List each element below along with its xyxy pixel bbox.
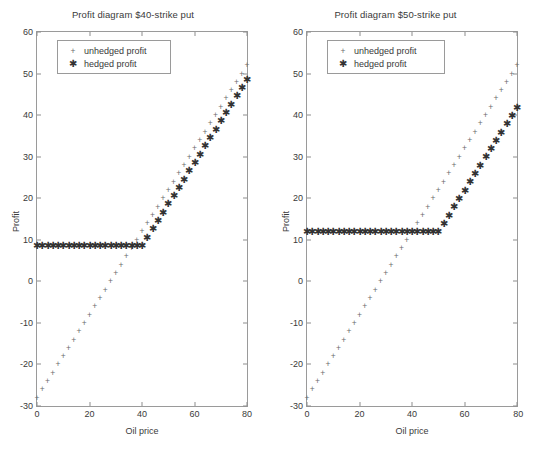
data-point-star: ✱ bbox=[503, 120, 511, 130]
y-tick-mark bbox=[37, 32, 41, 33]
y-tick-label: -20 bbox=[20, 359, 33, 369]
y-tick-mark bbox=[513, 198, 517, 199]
data-point-plus: + bbox=[213, 111, 218, 120]
data-point-plus: + bbox=[150, 211, 155, 220]
x-tick-label: 20 bbox=[84, 409, 94, 419]
data-point-plus: + bbox=[310, 385, 315, 394]
x-tick-mark bbox=[247, 402, 248, 406]
x-tick-mark bbox=[517, 402, 518, 406]
legend-left: + unhedged profit ✱ hedged profit bbox=[57, 40, 171, 74]
data-point-plus: + bbox=[341, 335, 346, 344]
x-tick-label: 40 bbox=[407, 409, 417, 419]
y-tick-mark bbox=[307, 156, 311, 157]
y-tick-label: -10 bbox=[290, 318, 303, 328]
data-point-star: ✱ bbox=[143, 233, 151, 243]
data-point-star: ✱ bbox=[75, 241, 83, 251]
y-tick-label: 50 bbox=[293, 69, 303, 79]
data-point-plus: + bbox=[82, 319, 87, 328]
data-point-plus: + bbox=[368, 294, 373, 303]
data-point-plus: + bbox=[224, 94, 229, 103]
data-point-plus: + bbox=[473, 127, 478, 136]
y-tick-label: 10 bbox=[293, 235, 303, 245]
data-point-plus: + bbox=[352, 319, 357, 328]
y-tick-mark bbox=[37, 73, 41, 74]
data-point-star: ✱ bbox=[476, 161, 484, 171]
data-point-star: ✱ bbox=[128, 241, 136, 251]
y-tick-mark bbox=[513, 364, 517, 365]
data-point-star: ✱ bbox=[164, 200, 172, 210]
data-point-plus: + bbox=[113, 269, 118, 278]
legend-entry-hedged-left: ✱ hedged profit bbox=[62, 57, 164, 70]
plot-area-left: -30-20-100102030405060020406080+++++++++… bbox=[36, 31, 248, 407]
y-tick-mark bbox=[307, 73, 311, 74]
data-point-star: ✱ bbox=[329, 228, 337, 238]
data-point-star: ✱ bbox=[180, 175, 188, 185]
data-point-star: ✱ bbox=[107, 241, 115, 251]
y-tick-mark bbox=[243, 281, 247, 282]
data-point-plus: + bbox=[92, 302, 97, 311]
y-tick-mark bbox=[243, 239, 247, 240]
data-point-plus: + bbox=[77, 327, 82, 336]
x-tick-label: 60 bbox=[459, 409, 469, 419]
data-point-star: ✱ bbox=[356, 228, 364, 238]
data-point-plus: + bbox=[124, 252, 129, 261]
data-point-star: ✱ bbox=[371, 228, 379, 238]
data-point-star: ✱ bbox=[217, 117, 225, 127]
data-point-plus: + bbox=[161, 194, 166, 203]
data-point-plus: + bbox=[129, 244, 134, 253]
y-tick-mark bbox=[37, 239, 41, 240]
data-point-plus: + bbox=[425, 202, 430, 211]
y-tick-label: -30 bbox=[20, 401, 33, 411]
y-tick-label: 50 bbox=[23, 69, 33, 79]
data-point-star: ✱ bbox=[445, 211, 453, 221]
data-point-star: ✱ bbox=[424, 228, 432, 238]
x-tick-mark bbox=[307, 32, 308, 36]
data-point-star: ✱ bbox=[382, 228, 390, 238]
x-axis-label-left: Oil price bbox=[36, 426, 248, 436]
data-point-plus: + bbox=[478, 119, 483, 128]
data-point-star: ✱ bbox=[387, 228, 395, 238]
data-point-plus: + bbox=[499, 86, 504, 95]
data-point-star: ✱ bbox=[450, 203, 458, 213]
y-tick-label: 60 bbox=[293, 27, 303, 37]
data-point-plus: + bbox=[357, 310, 362, 319]
y-tick-label: 10 bbox=[23, 235, 33, 245]
x-tick-mark bbox=[37, 32, 38, 36]
data-point-plus: + bbox=[415, 219, 420, 228]
y-tick-label: -30 bbox=[290, 401, 303, 411]
legend-label-hedged-left: hedged profit bbox=[84, 59, 137, 69]
data-point-plus: + bbox=[457, 152, 462, 161]
data-point-plus: + bbox=[61, 352, 66, 361]
data-point-plus: + bbox=[218, 103, 223, 112]
x-tick-mark bbox=[412, 32, 413, 36]
data-point-star: ✱ bbox=[455, 194, 463, 204]
x-tick-label: 0 bbox=[304, 409, 309, 419]
data-point-star: ✱ bbox=[392, 228, 400, 238]
data-point-plus: + bbox=[145, 219, 150, 228]
x-tick-label: 80 bbox=[242, 409, 252, 419]
data-point-star: ✱ bbox=[461, 186, 469, 196]
y-tick-label: 40 bbox=[293, 110, 303, 120]
data-point-star: ✱ bbox=[466, 178, 474, 188]
data-point-star: ✱ bbox=[350, 228, 358, 238]
data-point-star: ✱ bbox=[398, 228, 406, 238]
data-point-star: ✱ bbox=[185, 166, 193, 176]
data-point-star: ✱ bbox=[222, 108, 230, 118]
data-point-plus: + bbox=[229, 86, 234, 95]
data-point-plus: + bbox=[399, 244, 404, 253]
y-tick-mark bbox=[243, 198, 247, 199]
legend-label-unhedged-right: unhedged profit bbox=[354, 46, 417, 56]
data-point-star: ✱ bbox=[191, 158, 199, 168]
data-point-plus: + bbox=[171, 177, 176, 186]
y-tick-mark bbox=[243, 156, 247, 157]
x-tick-mark bbox=[142, 32, 143, 36]
data-point-plus: + bbox=[71, 335, 76, 344]
data-point-plus: + bbox=[134, 236, 139, 245]
y-tick-label: 30 bbox=[293, 152, 303, 162]
data-point-star: ✱ bbox=[138, 241, 146, 251]
legend-entry-unhedged-right: + unhedged profit bbox=[332, 44, 438, 57]
data-point-star: ✱ bbox=[319, 228, 327, 238]
plot-inner-right: -30-20-100102030405060020406080+++++++++… bbox=[307, 32, 517, 406]
y-tick-mark bbox=[37, 115, 41, 116]
data-point-plus: + bbox=[504, 78, 509, 87]
